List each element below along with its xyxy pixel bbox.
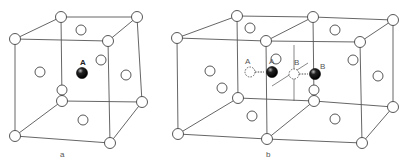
label-b-moved: B <box>320 62 325 71</box>
face-center-atom <box>76 25 86 35</box>
corner-atom <box>132 12 143 23</box>
corner-atom <box>309 96 320 107</box>
atom-b-original-dashed <box>289 69 299 79</box>
corner-atom <box>233 93 244 104</box>
label-a-moved: A <box>269 57 275 66</box>
label-b-original: B <box>294 58 299 67</box>
corner-atom <box>232 11 243 22</box>
interstitial-atom-b-moved <box>310 69 321 80</box>
caption-b: b <box>266 150 271 159</box>
face-center-atom <box>330 25 340 35</box>
corner-atom <box>355 37 366 48</box>
atom-label-a: A <box>80 58 86 67</box>
corner-atom <box>56 12 67 23</box>
face-center-atom <box>217 83 227 93</box>
panel-b-double-cell: A A B B b <box>172 11 399 160</box>
face-center-atom <box>35 67 45 77</box>
corner-atom <box>10 34 21 45</box>
face-center-atom <box>205 66 215 76</box>
corner-atom <box>103 36 114 47</box>
corner-atom <box>388 15 399 26</box>
face-center-atom <box>245 23 255 33</box>
corner-atom <box>10 131 21 142</box>
face-center-atom <box>96 55 106 65</box>
fcc-diagram: A a <box>0 0 406 160</box>
face-center-atom <box>121 70 131 80</box>
corner-atom <box>262 134 273 145</box>
face-center-atom <box>247 111 257 121</box>
corner-atom <box>173 129 184 140</box>
corner-atom <box>57 96 68 107</box>
face-center-atom <box>348 55 358 65</box>
corner-atom <box>357 138 368 149</box>
corner-atom <box>388 102 399 113</box>
face-center-atom <box>330 114 340 124</box>
interstitial-atom-a <box>77 68 88 79</box>
corner-atom <box>308 12 319 23</box>
face-center-atom <box>78 115 88 125</box>
face-center-atom <box>373 71 383 81</box>
face-center-atom <box>57 85 67 95</box>
corner-atom <box>105 138 116 149</box>
corner-atom <box>261 36 272 47</box>
label-a-original: A <box>245 57 251 66</box>
interstitial-atom-a-moved <box>267 67 278 78</box>
face-center-atom <box>309 85 319 95</box>
panel-a-unit-cell: A a <box>10 12 148 160</box>
corner-atom <box>172 33 183 44</box>
atom-a-original-dashed <box>245 67 255 77</box>
corner-atom <box>137 97 148 108</box>
caption-a: a <box>60 150 65 159</box>
